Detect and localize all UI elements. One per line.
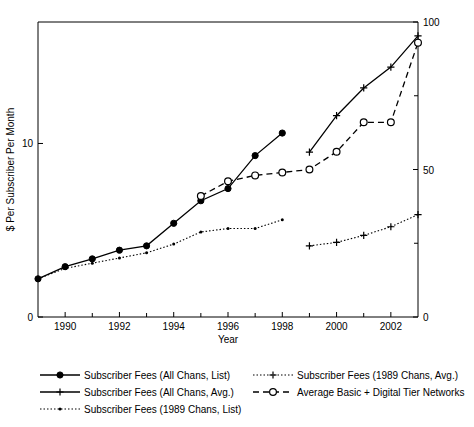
legend-marker [270,389,277,396]
y-tick-label-right: 50 [423,165,435,176]
y-axis-right-ticks: 050100 [413,17,440,323]
x-tick-label: 1996 [217,321,240,332]
series-4 [197,39,421,199]
x-tick-label: 1992 [108,321,131,332]
legend-item[interactable]: Subscriber Fees (1989 Chans, Avg.) [253,370,458,381]
series-line [38,220,282,279]
y-tick-label-right: 100 [423,17,440,28]
series-marker [225,178,232,185]
legend-label: Subscriber Fees (1989 Chans, Avg.) [297,370,458,381]
legend-label: Subscriber Fees (All Chans, List) [84,370,230,381]
series-marker [387,223,394,230]
legend-item[interactable]: Subscriber Fees (1989 Chans, List) [40,404,241,415]
y-axis-left-ticks: 010 [22,138,43,323]
data-series-group [35,32,422,282]
series-marker [306,242,313,249]
legend: Subscriber Fees (All Chans, List)Subscri… [40,370,464,415]
y-axis-title: $ Per Subscriber Per Month [5,108,16,231]
series-line [309,36,418,152]
legend-item[interactable]: Subscriber Fees (All Chans, Avg.) [40,387,234,398]
series-line [309,215,418,246]
series-marker [91,262,94,265]
y-tick-label-right: 0 [423,312,429,323]
series-marker [118,257,121,260]
series-marker [387,119,394,126]
plot-frame [38,22,418,317]
legend-item[interactable]: Average Basic + Digital Tier Networks [253,387,464,398]
series-marker [225,185,231,191]
x-tick-label: 2002 [380,321,403,332]
series-marker [254,227,257,230]
series-3 [306,211,422,249]
legend-marker [269,371,276,378]
legend-label: Subscriber Fees (All Chans, Avg.) [84,387,234,398]
series-0 [35,130,285,282]
legend-marker [56,388,63,395]
series-marker [197,193,204,200]
series-line [38,133,282,279]
legend-marker [59,408,62,411]
series-marker [279,169,286,176]
y-tick-label-left: 0 [27,312,33,323]
series-marker [37,277,40,280]
series-marker [227,227,230,230]
legend-marker [57,372,63,378]
series-marker [281,218,284,221]
x-tick-label: 1994 [163,321,186,332]
series-marker [143,243,149,249]
series-marker [172,243,175,246]
series-marker [116,247,122,253]
series-marker [145,251,148,254]
y-tick-label-left: 10 [22,138,34,149]
series-marker [171,220,177,226]
x-axis-title: Year [218,334,239,345]
x-axis-ticks: 1990199219941996199820002002 [54,312,402,332]
series-2 [37,218,284,280]
series-marker [360,232,367,239]
legend-label: Subscriber Fees (1989 Chans, List) [84,404,241,415]
series-marker [279,130,285,136]
series-marker [333,239,340,246]
series-marker [64,267,67,270]
series-marker [415,39,422,46]
x-tick-label: 1990 [54,321,77,332]
series-1 [306,32,422,155]
series-marker [199,230,202,233]
series-marker [306,166,313,173]
series-marker [89,256,95,262]
legend-item[interactable]: Subscriber Fees (All Chans, List) [40,370,230,381]
series-marker [414,211,421,218]
series-marker [252,153,258,159]
x-tick-label: 1998 [271,321,294,332]
plot-border [38,22,418,317]
series-marker [360,119,367,126]
series-marker [333,148,340,155]
legend-label: Average Basic + Digital Tier Networks [297,387,464,398]
chart-figure: 1990199219941996199820002002 010 050100 … [0,0,474,427]
series-marker [252,172,259,179]
chart-canvas: 1990199219941996199820002002 010 050100 … [0,0,474,427]
x-tick-label: 2000 [325,321,348,332]
